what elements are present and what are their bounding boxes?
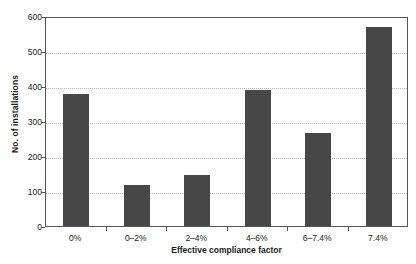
x-tick-label: 0–2% (125, 233, 147, 243)
y-tick-mark (41, 17, 45, 18)
y-tick-mark (41, 227, 45, 228)
y-tick-mark (41, 157, 45, 158)
y-tick-mark (41, 192, 45, 193)
y-tick-label: 500 (28, 47, 42, 57)
bar[interactable] (63, 94, 89, 226)
y-tick-label: 300 (28, 117, 42, 127)
x-tick-label: 0% (69, 233, 81, 243)
bar[interactable] (184, 175, 210, 226)
y-tick-label: 400 (28, 82, 42, 92)
plot-area (45, 17, 408, 227)
y-tick-label: 600 (28, 12, 42, 22)
x-tick-label: 4–6% (246, 233, 268, 243)
bar-slot (46, 18, 107, 226)
bar[interactable] (305, 133, 331, 226)
bar[interactable] (366, 27, 392, 226)
x-axis-title: Effective compliance factor (45, 245, 408, 255)
bar-slot (349, 18, 410, 226)
y-tick-mark (41, 52, 45, 53)
y-tick-label: 200 (28, 152, 42, 162)
bars (46, 18, 407, 226)
x-tick-label: 2–4% (185, 233, 207, 243)
x-tick-mark (106, 227, 107, 231)
y-tick-label: 100 (28, 187, 42, 197)
bar-slot (167, 18, 228, 226)
x-tick-label: 6–7.4% (303, 233, 332, 243)
y-axis-tick-labels: 0100200300400500600 (18, 17, 42, 227)
y-tick-mark (41, 122, 45, 123)
x-tick-mark (227, 227, 228, 231)
bar-slot (228, 18, 289, 226)
bar[interactable] (124, 185, 150, 226)
x-tick-mark (287, 227, 288, 231)
bar-slot (288, 18, 349, 226)
x-tick-mark (348, 227, 349, 231)
bar[interactable] (245, 90, 271, 227)
x-tick-label: 7.4% (368, 233, 387, 243)
bar-slot (107, 18, 168, 226)
y-tick-mark (41, 87, 45, 88)
x-tick-mark (166, 227, 167, 231)
bar-chart: No. of installations 0100200300400500600… (0, 0, 416, 264)
